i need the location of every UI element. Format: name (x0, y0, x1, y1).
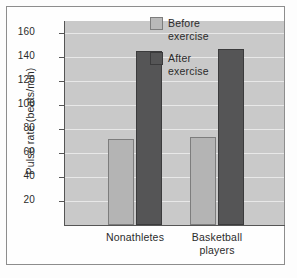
y-tick-mark (59, 201, 65, 202)
gridline (65, 129, 284, 130)
x-axis-spine (64, 225, 285, 226)
bar-before-1 (190, 137, 216, 225)
chart-legend: BeforeexerciseAfterexercise (150, 17, 228, 87)
gridline (65, 177, 284, 178)
y-tick-mark (59, 81, 65, 82)
y-tick-label: 40 (23, 170, 35, 181)
legend-label-line: Before (168, 17, 209, 30)
y-tick-mark (59, 33, 65, 34)
legend-item-after: Afterexercise (150, 52, 228, 78)
x-tick-label-line: Nonathletes (90, 231, 180, 244)
y-tick-label: 80 (23, 122, 35, 133)
y-tick-mark (59, 129, 65, 130)
y-tick-label: 20 (23, 194, 35, 205)
legend-item-before: Beforeexercise (150, 17, 228, 43)
x-tick-label-line: players (172, 244, 262, 257)
y-tick-label: 100 (18, 98, 35, 109)
legend-label: Beforeexercise (168, 17, 209, 43)
gridline (65, 105, 284, 106)
y-tick-label: 120 (18, 74, 35, 85)
gridline (65, 201, 284, 202)
chart-frame: Pulse rate (beats/min) 20406080100120140… (6, 6, 285, 265)
legend-swatch-before (150, 17, 163, 30)
x-tick-label: Basketballplayers (172, 231, 262, 257)
x-tick-label-line: Basketball (172, 231, 262, 244)
legend-label-line: exercise (168, 30, 209, 43)
x-tick-label: Nonathletes (90, 231, 180, 244)
legend-label-line: exercise (168, 65, 209, 78)
y-tick-label: 160 (18, 26, 35, 37)
y-tick-mark (59, 153, 65, 154)
y-tick-label: 60 (23, 146, 35, 157)
y-tick-mark (59, 177, 65, 178)
legend-label: Afterexercise (168, 52, 209, 78)
legend-label-line: After (168, 52, 209, 65)
y-tick-mark (59, 105, 65, 106)
legend-swatch-after (150, 52, 163, 65)
bar-before-0 (108, 139, 134, 225)
y-tick-label: 140 (18, 50, 35, 61)
y-tick-mark (59, 57, 65, 58)
chart-figure: Pulse rate (beats/min) 20406080100120140… (0, 0, 297, 278)
gridline (65, 153, 284, 154)
